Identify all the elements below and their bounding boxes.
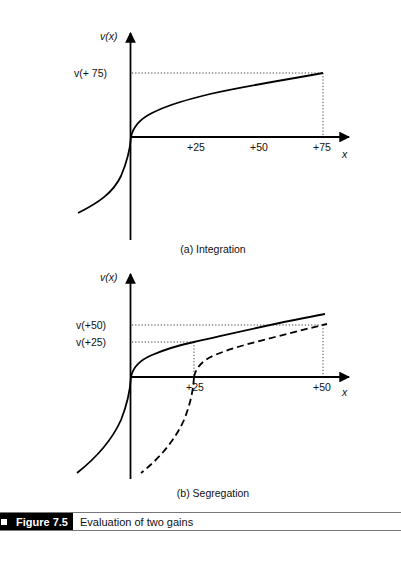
value-curve-gains (131, 314, 325, 377)
x-tick-50: +50 (313, 381, 331, 393)
x-axis-label: x (341, 386, 348, 398)
value-curve-losses (78, 137, 131, 213)
y-mark-v50: v(+50) (76, 319, 106, 331)
x-tick-50: +50 (250, 141, 268, 153)
x-tick-75: +75 (313, 141, 331, 153)
panel-a-title: (a) Integration (180, 243, 246, 255)
panel-a-integration: v(x) v(+ 75) +25 +50 +75 x (a) Integrati… (74, 30, 349, 255)
figure-caption-bar: Figure 7.5 Evaluation of two gains (0, 512, 401, 531)
figure-number-tag: Figure 7.5 (0, 513, 73, 530)
value-curve-gains (131, 73, 323, 137)
square-bullet-icon (1, 519, 7, 525)
x-tick-25: +25 (186, 381, 204, 393)
y-axis-label: v(x) (100, 271, 118, 283)
y-axis-label: v(x) (100, 30, 118, 42)
y-mark-v25: v(+25) (76, 336, 106, 348)
shifted-value-curve-gains (194, 324, 327, 377)
x-tick-25: +25 (187, 141, 205, 153)
x-axis-label: x (341, 148, 348, 160)
figure-number: Figure 7.5 (16, 516, 68, 528)
panel-b-segregation: v(x) v(+50) v(+25) +25 +50 x (b) Segrega… (76, 271, 349, 499)
value-curve-losses (77, 377, 131, 473)
y-mark-v75: v(+ 75) (74, 67, 107, 79)
figure-caption: Evaluation of two gains (80, 513, 193, 530)
figure-graphic: v(x) v(+ 75) +25 +50 +75 x (a) Integrati… (0, 0, 401, 563)
panel-b-title: (b) Segregation (177, 487, 250, 499)
